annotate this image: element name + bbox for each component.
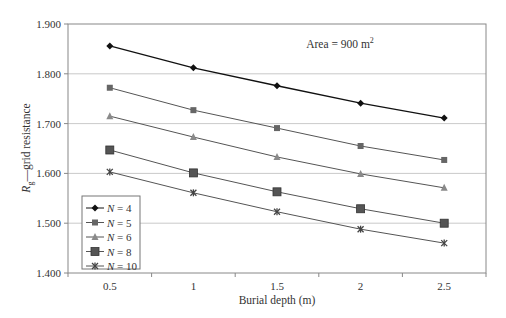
- x-tick-label: 2: [358, 280, 364, 292]
- y-tick-label: 1.600: [36, 167, 61, 179]
- x-tick-label: 1: [191, 280, 197, 292]
- legend-label: N = 8: [106, 246, 132, 258]
- diamond-marker: [274, 82, 281, 89]
- diamond-marker: [357, 100, 364, 107]
- y-axis-label: Rg—grid resistance: [20, 103, 35, 193]
- x-tick-label: 2.5: [437, 280, 451, 292]
- square-marker: [107, 85, 113, 91]
- x-tick-label: 1.5: [270, 280, 284, 292]
- diamond-marker: [106, 42, 113, 49]
- legend: N = 4N = 5N = 6N = 8N = 10: [82, 196, 140, 272]
- y-tick-label: 1.700: [36, 118, 61, 130]
- diamond-marker: [441, 115, 448, 122]
- square-marker: [358, 143, 364, 149]
- legend-label: N = 4: [106, 202, 132, 214]
- square-marker: [190, 107, 196, 113]
- square-marker: [274, 125, 280, 131]
- star-marker: [107, 168, 113, 175]
- series-lines: [106, 42, 448, 246]
- legend-label: N = 10: [106, 260, 138, 272]
- big-square-marker: [91, 248, 99, 256]
- y-tick-label: 1.800: [36, 68, 61, 80]
- legend-item: N = 8: [86, 246, 132, 258]
- x-axis-label: Burial depth (m): [239, 294, 316, 307]
- big-square-marker: [273, 188, 281, 196]
- big-square-marker: [357, 205, 365, 213]
- big-square-marker: [106, 146, 114, 154]
- big-square-marker: [189, 169, 197, 177]
- x-tick-label: 0.5: [103, 280, 117, 292]
- big-square-marker: [440, 219, 448, 227]
- y-tick-label: 1.900: [36, 18, 61, 30]
- x-axis: 0.511.522.5: [68, 273, 486, 292]
- y-tick-label: 1.500: [36, 217, 61, 229]
- series-N-4: [106, 42, 447, 121]
- y-axis: 1.4001.5001.6001.7001.8001.900: [36, 18, 68, 279]
- y-tick-label: 1.400: [36, 267, 61, 279]
- diamond-marker: [190, 64, 197, 71]
- line-chart: 1.4001.5001.6001.7001.8001.900 0.511.522…: [0, 0, 506, 318]
- legend-label: N = 5: [106, 217, 132, 229]
- area-annotation: Area = 900 m2: [306, 36, 374, 50]
- square-marker: [92, 220, 98, 226]
- square-marker: [441, 157, 447, 163]
- triangle-marker: [106, 112, 113, 119]
- legend-label: N = 6: [106, 231, 132, 243]
